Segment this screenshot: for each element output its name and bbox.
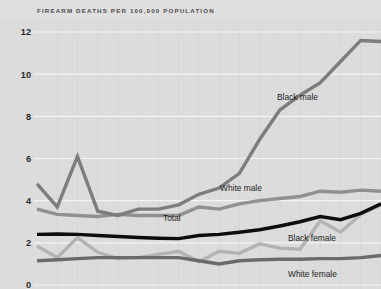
- chart-canvas: 024681012 FIREARM DEATHS PER 100,000 POP…: [0, 0, 381, 289]
- y-axis-tick-label: 2: [26, 238, 31, 248]
- series-label-white-male: White male: [220, 183, 262, 193]
- series-label-total: Total: [163, 213, 181, 223]
- chart-title: FIREARM DEATHS PER 100,000 POPULATION: [37, 7, 215, 14]
- y-axis-tick-label: 4: [26, 196, 32, 206]
- y-axis-tick-label: 0: [26, 280, 31, 289]
- series-label-black-female: Black female: [288, 233, 336, 243]
- y-axis-tick-label: 10: [21, 70, 31, 80]
- y-axis-tick-label: 8: [26, 112, 31, 122]
- firearm-deaths-line-chart: 024681012 FIREARM DEATHS PER 100,000 POP…: [0, 0, 381, 289]
- y-axis-tick-label: 6: [26, 154, 31, 164]
- y-axis-tick-label: 12: [21, 27, 31, 37]
- series-label-white-female: White female: [288, 269, 337, 279]
- series-label-black-male: Black male: [277, 92, 318, 102]
